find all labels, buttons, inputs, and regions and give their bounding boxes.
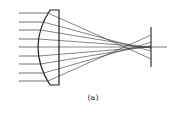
- refracted-ray: [40, 30, 151, 48]
- refracted-ray: [48, 35, 151, 81]
- figure-caption: (a): [0, 93, 186, 102]
- refracted-rays: [38, 13, 151, 81]
- refracted-ray: [48, 13, 151, 59]
- plano-convex-lens: [38, 10, 59, 85]
- refracted-ray: [39, 39, 151, 47]
- refracted-ray: [40, 46, 151, 64]
